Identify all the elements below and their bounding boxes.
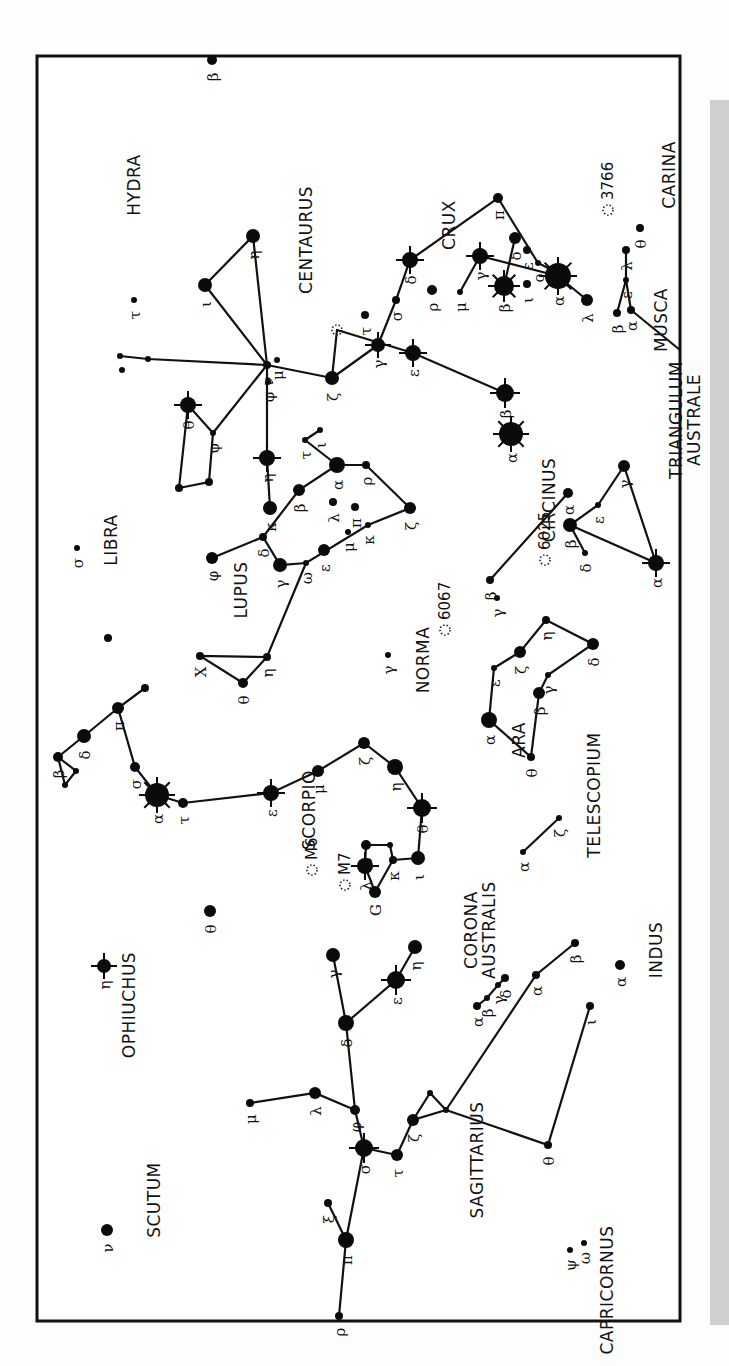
star-dot [407,1114,419,1126]
star-label: κ [360,535,378,545]
star-dot [273,558,287,572]
star-dot [263,785,279,801]
star-label: ε [316,564,334,572]
star-label: η [538,632,556,641]
star-label: ζ [402,522,420,530]
star-label: ζ [405,1134,423,1142]
star-dot [627,306,635,314]
constellation-label: SCORPIO [299,770,319,850]
star-dot [481,712,497,728]
star-dot [443,1107,449,1113]
star-dot [73,768,79,774]
star-label: δ [585,657,603,666]
star-label: α [515,862,533,872]
star-label: β [562,540,580,549]
star-dot [457,289,463,295]
star-dot [335,1312,343,1320]
star-label: λ [618,261,636,271]
star-dot [303,560,309,566]
star-dot [595,502,601,508]
star-label: ζ [324,393,342,401]
star-dot [545,263,571,289]
star-dot [545,672,551,678]
star-dot [210,430,216,436]
star-label: δ [76,750,94,759]
star-dot [472,248,488,264]
star-label: σ [356,1164,374,1174]
constellation-label: AUSTRALE [684,374,704,466]
star-dot [178,798,188,808]
constellation-label: NORMA [413,627,433,694]
star-dot [586,1002,594,1010]
star-dot [618,460,630,472]
star-dot [259,450,275,466]
star-dot [53,752,63,762]
star-dot [302,437,308,443]
star [145,356,151,362]
constellation-label: SAGITTARIUS [467,1102,487,1219]
constellation-label: ARA [509,722,529,758]
star-label: σ [388,311,406,321]
star-label: ι [519,297,537,303]
star-label: δ [577,563,595,572]
star-label: θ [202,924,220,933]
star [62,782,68,788]
star-label: η [387,783,405,792]
star-label: α [550,296,568,306]
star-label: G [367,904,385,916]
star-label: α [648,578,666,588]
star-label: γ [616,479,634,488]
star-label: θ [523,768,541,777]
star-dot [509,232,521,244]
star [427,1090,433,1096]
star-dot [329,457,345,473]
star [443,1107,449,1113]
star-label: θ [540,1156,558,1165]
star-label: α [623,321,641,331]
star-label: η [96,981,114,990]
star-label: β [496,304,514,313]
star [141,684,149,692]
star-dot [361,840,371,850]
star-dot [622,246,630,254]
star [175,484,183,492]
star-label: κ [262,522,280,532]
star-label: X [192,666,210,677]
star-label: β [50,770,68,779]
star-dot [581,1240,587,1246]
star-dot [613,309,621,317]
star-label: μ [269,370,287,380]
star-label: η [259,474,277,483]
constellation-label: CORONA [461,891,481,969]
star-dot [413,799,431,817]
star-label: ζ [512,666,530,674]
star-label: τ [357,327,375,335]
star-dot [556,815,562,821]
star-dot [345,529,351,535]
star-label: θ [235,695,253,704]
star-label: β [479,1009,497,1018]
star [205,478,213,486]
star-dot [385,652,391,658]
star-label: π [347,518,365,528]
star-dot [523,246,531,254]
star-dot [532,971,540,979]
star [104,634,112,642]
star-label: τ [175,816,193,824]
star-dot [112,702,124,714]
star-label: ε [618,291,636,299]
star-dot [405,345,421,361]
star-label: κ [385,871,403,881]
star-label: γ [489,608,507,617]
star-dot [325,371,339,385]
star-label: μ [452,302,470,312]
constellation-label: OPHIUCHUS [119,952,139,1058]
star-label: λ [307,1106,325,1116]
star-dot [207,55,217,65]
star-dot [392,296,400,304]
star-label: ρ [358,476,376,485]
star-dot [362,461,370,469]
star-dot [293,484,305,496]
star-dot [387,842,393,848]
star-label: τ [126,311,144,319]
